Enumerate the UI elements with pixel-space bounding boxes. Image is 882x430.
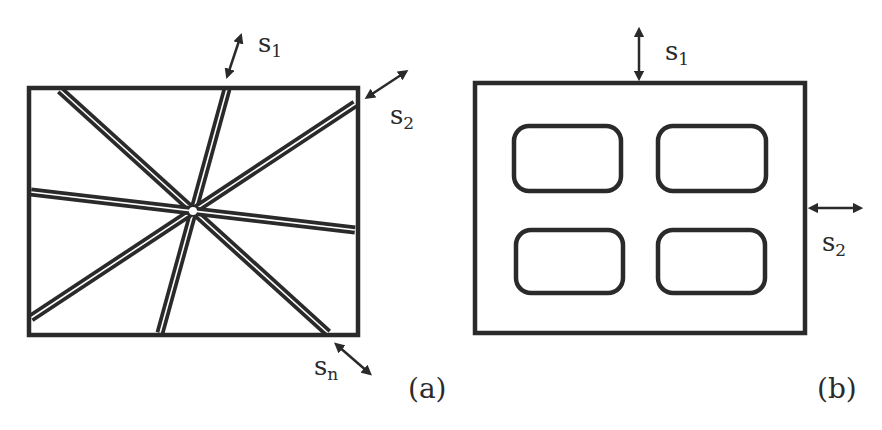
- holes: [514, 126, 766, 293]
- intersection-point: [189, 207, 197, 215]
- hole-bottom-left: [516, 230, 623, 293]
- channels: [31, 89, 355, 333]
- label-s1: s1: [665, 36, 689, 69]
- label-sn: sn: [314, 351, 338, 384]
- arrow-s2-icon: [369, 73, 404, 96]
- caption-b: (b): [817, 372, 857, 405]
- label-s1: s1: [258, 28, 282, 61]
- caption-a: (a): [408, 372, 447, 405]
- hole-top-left: [514, 126, 621, 191]
- arrow-s1-icon: [228, 38, 240, 74]
- label-s2: s2: [822, 227, 846, 260]
- hole-bottom-right: [658, 230, 765, 293]
- arrow-sn-icon: [338, 346, 368, 372]
- panel-b-boundary: [475, 83, 805, 333]
- panel-b: s1 s2 (b): [475, 32, 858, 405]
- panel-a: s1 s2 sn (a): [29, 28, 447, 405]
- hole-top-right: [658, 126, 766, 191]
- figure-canvas: s1 s2 sn (a) s1 s2 (b): [0, 0, 882, 430]
- label-s2: s2: [390, 100, 414, 133]
